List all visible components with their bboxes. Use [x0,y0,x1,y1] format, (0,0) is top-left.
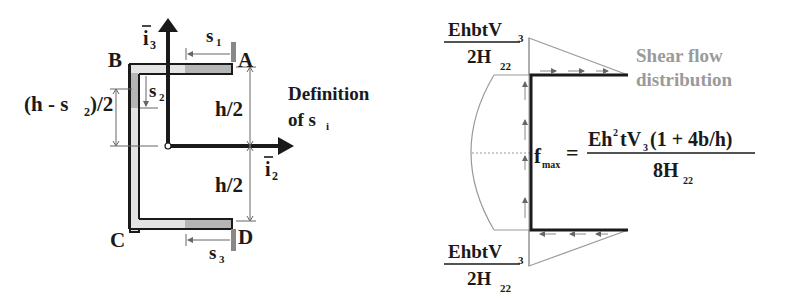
s1-label: s 1 [206,25,222,48]
svg-text:1: 1 [216,36,222,48]
axis-i2-label: i 2 [264,157,278,183]
c-section-diagram: B A C D i 3 i 2 s 1 s 2 s 3 h/2 h/2 (h -… [24,18,370,265]
svg-text:2H: 2H [467,268,492,289]
svg-text:Definition: Definition [288,83,370,104]
upper-half-height-label: h/2 [215,97,243,121]
svg-text:distribution: distribution [636,69,733,90]
svg-text:2: 2 [272,169,278,183]
axis-i3-label: i 3 [142,26,156,52]
svg-text:2H: 2H [467,46,492,67]
point-a-label: A [238,48,254,72]
web-dimension-label: (h - s 2 )/2 [24,92,113,119]
top-flange-distribution [529,38,628,75]
lower-half-height-label: h/2 [215,173,243,197]
svg-text:s: s [206,25,213,46]
svg-text:s: s [209,242,216,263]
svg-text:3: 3 [150,38,156,52]
point-d-label: D [238,225,253,249]
svg-text:tV: tV [620,128,642,150]
axis-i3 [158,18,178,148]
svg-text:(h - s: (h - s [24,92,68,116]
end-cap-a [231,42,236,62]
origin-point [165,143,171,149]
svg-text:i: i [143,27,149,49]
svg-text:f: f [534,144,542,168]
svg-text:2: 2 [159,91,165,103]
bottom-flange-distribution [529,230,628,266]
svg-text:=: = [566,140,579,165]
bottom-flange-value: EhbtV 3 2H 22 [444,241,524,294]
s2-label: s 2 [149,80,165,103]
point-c-label: C [110,228,125,252]
web-parabolic-distribution [471,75,494,230]
end-cap-d [231,229,236,251]
svg-text:(1 + 4b/h): (1 + 4b/h) [650,128,733,151]
fmax-formula: f max = Eh 2 tV 3 (1 + 4b/h) 8H 22 [534,127,755,186]
svg-text:i: i [326,120,329,132]
point-b-label: B [108,48,122,72]
top-flange-value: EhbtV 3 2H 22 [444,19,524,72]
svg-text:22: 22 [683,175,693,186]
svg-text:of s: of s [288,109,316,130]
svg-text:3: 3 [643,142,648,153]
definition-title: Definition of s i [288,83,370,132]
svg-text:i: i [265,158,271,180]
svg-text:22: 22 [500,60,512,72]
svg-text:2: 2 [613,127,618,138]
diagram-canvas: B A C D i 3 i 2 s 1 s 2 s 3 h/2 h/2 (h -… [0,0,788,302]
axis-i2 [168,137,294,155]
svg-text:EhbtV: EhbtV [448,19,502,40]
svg-text:22: 22 [500,282,512,294]
s3-label: s 3 [209,242,225,265]
svg-text:)/2: )/2 [90,92,113,116]
svg-text:8H: 8H [653,159,679,181]
svg-text:Eh: Eh [588,128,612,150]
svg-text:max: max [542,159,560,170]
shear-flow-diagram: EhbtV 3 2H 22 EhbtV 3 2H 22 Shear flow d… [444,19,755,294]
svg-text:Shear flow: Shear flow [636,45,723,66]
svg-text:s: s [149,80,156,101]
shear-flow-label: Shear flow distribution [636,45,733,90]
svg-text:3: 3 [219,253,225,265]
svg-text:EhbtV: EhbtV [448,241,502,262]
